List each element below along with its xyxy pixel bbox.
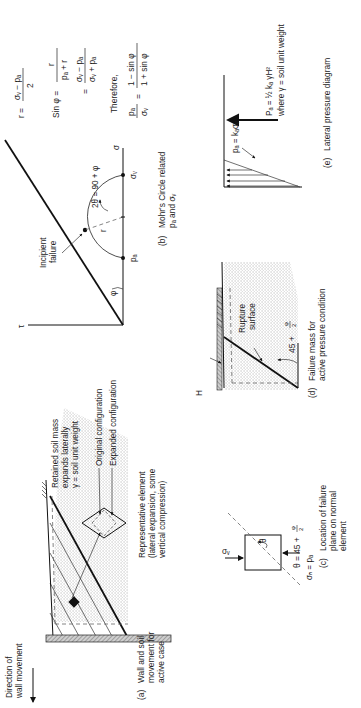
sin-equation-num1: r — [46, 63, 56, 66]
pa-formula-e: pₐ = kₐσᵥ — [231, 121, 240, 153]
caption-a-line3: active case — [156, 641, 166, 683]
ratio-eq: = — [133, 94, 143, 99]
rupture-label-line1: Rupture — [238, 303, 247, 333]
expanded-configuration-label: Expanded configuration — [109, 380, 118, 466]
r-equation-den: 2 — [25, 83, 35, 88]
pressure-arrows — [227, 170, 298, 186]
result-den: 1 + sin φ — [139, 53, 149, 86]
soil-label-line2: expands laterally — [61, 426, 70, 488]
caption-c-tag: (c) — [318, 558, 328, 568]
ratio-num: pₐ — [126, 107, 136, 116]
caption-c-line2: plane on normal — [328, 491, 338, 551]
soil-label-line1: Retained soil mass — [51, 419, 60, 488]
pressure-triangle — [224, 160, 300, 187]
PA-formula: Pₐ = ½ kₐ γH² — [265, 67, 274, 116]
panel-c-failure-plane: σᵥ σₕ = pₐ θ θ = 45 + φ 2 (c) Location o… — [222, 485, 348, 585]
theta-phi-num: φ — [290, 526, 296, 530]
sigma-v-label-b: σᵥ — [129, 171, 138, 179]
incipient-failure-label-line2: failure — [49, 240, 58, 263]
panel-b-mohrs-circle: τ σ pₐ σᵥ r 2θ = 90 + φ φ Incipient fail… — [5, 140, 177, 328]
angle-label-d: 45 + — [287, 336, 297, 353]
sin-equation-eq: = — [80, 89, 90, 94]
sigma-v-label-c: σᵥ — [222, 547, 230, 556]
theta-equation: θ = 45 + — [292, 537, 302, 568]
direction-label-line2: wall movement — [15, 643, 24, 699]
caption-d-line2: active pressure condition — [317, 288, 327, 381]
pa-label-b: pₐ — [129, 253, 138, 262]
sin-equation-num2: σᵥ − pₐ — [74, 56, 84, 82]
element-label-line3: vertical compression) — [158, 480, 167, 558]
caption-b-line1: Mohr's Circle related — [157, 151, 167, 228]
r-equation-num: σᵥ − pₐ — [12, 74, 22, 100]
failure-plane-c — [228, 513, 300, 585]
active-earth-pressure-figure: Direction of wall movement — [0, 0, 361, 708]
caption-e-tag: (e) — [322, 158, 332, 168]
element-label-line1: Representative element — [138, 471, 147, 558]
caption-a-line1: Wall and soil — [136, 636, 146, 683]
caption-b-tag: (b) — [157, 236, 167, 246]
panel-e-lateral-pressure: pₐ = kₐσᵥ Pₐ = ½ kₐ γH² where γ = soil u… — [224, 24, 332, 187]
where-label: where γ = soil unit weight — [277, 24, 286, 117]
two-theta-label: 2θ = 90 + φ — [91, 166, 100, 208]
sin-equation-den1: pₐ + r — [59, 60, 69, 80]
caption-d-line1: Failure mass for — [307, 321, 317, 381]
angle-phi-num-d: φ — [283, 322, 289, 326]
sin-equation-den2: σᵥ + pₐ — [87, 56, 97, 82]
phi-label-b: φ — [109, 291, 118, 296]
soil-label-line3: γ = soil unit weight — [71, 420, 80, 488]
caption-e-line1: Lateral pressure diagram — [322, 58, 332, 151]
wall-height-label: H — [195, 390, 204, 396]
result-num: 1 − sin φ — [126, 53, 136, 86]
theta-phi-den: 2 — [298, 527, 304, 531]
ground-surface-d — [222, 262, 224, 388]
direction-label-line1: Direction of — [5, 656, 14, 698]
caption-d-tag: (d) — [307, 388, 317, 398]
radius-line — [85, 217, 123, 230]
caption-c-line1: Location of failure — [318, 485, 328, 551]
caption-a-line2: movement for — [146, 632, 156, 683]
ground-hatch-a — [42, 482, 46, 498]
ratio-den: σᵥ — [139, 108, 149, 116]
panel-a-wall-and-soil: Direction of wall movement — [5, 380, 171, 702]
pa-point — [121, 256, 125, 260]
caption-a-tag: (a) — [136, 690, 146, 700]
rupture-label-line2: surface — [248, 303, 257, 330]
tau-axis-label: τ — [17, 324, 26, 328]
theta-label-c: θ — [259, 538, 268, 543]
therefore-label: Therefore, — [109, 74, 119, 113]
caption-b-line2: pₐ and σᵥ — [167, 193, 177, 228]
panel-d-failure-mass: 45 + φ 2 Rupture surface H (d) Failure m… — [195, 262, 327, 398]
mohr-equations: r = σᵥ − pₐ 2 Sin φ = r pₐ + r = σᵥ − pₐ… — [12, 43, 149, 118]
incipient-failure-label-line1: Incipient — [39, 237, 48, 268]
sigma-h-label: σₕ = pₐ — [305, 554, 314, 580]
original-configuration-label: Original configuration — [95, 388, 104, 466]
radius-label: r — [99, 229, 108, 232]
incipient-failure-point — [83, 228, 87, 232]
sin-equation-lhs: Sin φ = — [51, 91, 61, 118]
r-equation-lhs: r = — [16, 108, 26, 118]
sigma-v-point — [121, 173, 125, 177]
caption-c-line3: element — [338, 521, 348, 551]
element-label-line2: (lateral expansion, some — [148, 468, 157, 558]
sigma-axis-label: σ — [112, 145, 121, 150]
